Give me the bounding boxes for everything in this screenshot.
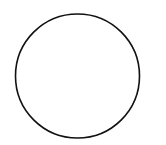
drawing-canvas <box>0 0 166 145</box>
circle-shape <box>16 14 140 138</box>
diagram-svg <box>0 0 166 145</box>
